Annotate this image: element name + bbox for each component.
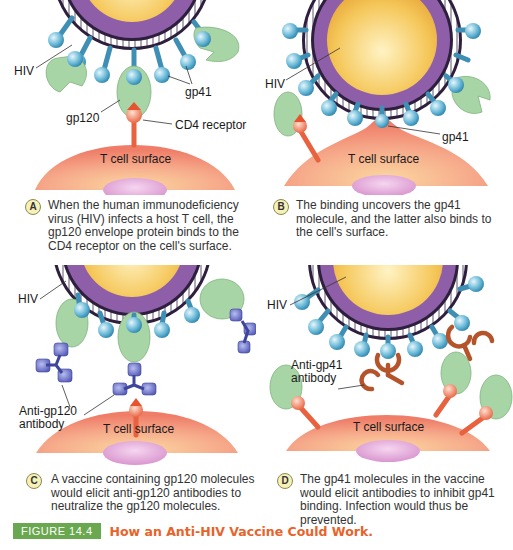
label-gp41: gp41 (185, 86, 212, 99)
caption-b: The binding uncovers the gp41 molecule, … (296, 199, 501, 240)
cd4-receptor (293, 114, 318, 160)
step-badge-a: A (25, 199, 41, 215)
figure-caption-bar: FIGURE 14.4 How an Anti-HIV Vaccine Coul… (13, 523, 373, 539)
label-t-cell-surface: T cell surface (348, 152, 419, 166)
label-cd4-receptor: CD4 receptor (175, 119, 246, 132)
label-t-cell-surface: T cell surface (100, 152, 171, 166)
hiv-virus (296, 0, 476, 120)
label-hiv: HIV (267, 299, 287, 312)
step-badge-b: B (273, 199, 289, 215)
figure-title: How an Anti-HIV Vaccine Could Work. (110, 524, 373, 539)
cd4-receptor (126, 102, 142, 145)
label-hiv: HIV (14, 65, 34, 78)
step-badge-c: C (26, 473, 42, 489)
panel-b: HIV gp41 T cell surface B The binding un… (256, 0, 512, 270)
label-hiv: HIV (265, 78, 285, 91)
label-gp41: gp41 (442, 131, 469, 144)
caption-c: A vaccine containing gp120 molecules wou… (51, 473, 256, 514)
panel-d: HIV Anti-gp41 antibody T cell surface D … (256, 265, 512, 520)
label-anti-gp120-antibody: Anti-gp120 antibody (19, 405, 79, 431)
hiv-virus (308, 265, 468, 340)
figure-number: FIGURE 14.4 (13, 523, 101, 539)
hiv-virus (52, 0, 212, 50)
label-t-cell-surface: T cell surface (103, 422, 174, 436)
step-badge-d: D (277, 473, 293, 489)
label-t-cell-surface: T cell surface (353, 420, 424, 434)
panel-a: HIV gp41 gp120 CD4 receptor T cell surfa… (0, 0, 256, 270)
caption-d: The gp41 molecules in the vaccine would … (300, 473, 505, 527)
panel-c: HIV Anti-gp120 antibody T cell surface C… (0, 265, 256, 520)
label-hiv: HIV (18, 293, 38, 306)
caption-a: When the human immunodeficiency virus (H… (48, 199, 253, 253)
label-anti-gp41-antibody: Anti-gp41 antibody (291, 359, 347, 385)
label-gp120: gp120 (66, 112, 99, 125)
